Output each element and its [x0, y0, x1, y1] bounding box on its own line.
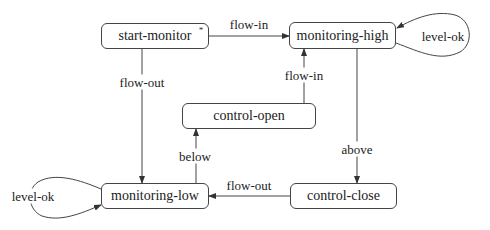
edge-label-open-to-high: flow-in [284, 68, 324, 83]
initial-state-marker: * [199, 25, 204, 35]
state-label: control-close [307, 188, 380, 204]
edge-label-low-to-open: below [178, 149, 212, 164]
state-monitoring-low: monitoring-low [101, 183, 209, 209]
state-label: start-monitor [118, 28, 191, 44]
edge-label-close-to-low: flow-out [226, 178, 273, 193]
state-monitoring-high: monitoring-high [289, 22, 396, 49]
edge-label-start-to-low: flow-out [119, 75, 166, 90]
edge-label-low-self-loop: level-ok [11, 189, 56, 204]
state-label: control-open [213, 108, 285, 124]
edge-label-high-self-loop: level-ok [421, 29, 466, 44]
state-label: monitoring-high [297, 28, 389, 44]
state-control-close: control-close [290, 183, 397, 209]
state-start-monitor: start-monitor [101, 23, 209, 49]
edge-label-high-to-close: above [340, 142, 373, 157]
edge-label-start-to-high: flow-in [229, 17, 269, 32]
state-label: monitoring-low [111, 188, 199, 204]
state-control-open: control-open [182, 103, 316, 129]
